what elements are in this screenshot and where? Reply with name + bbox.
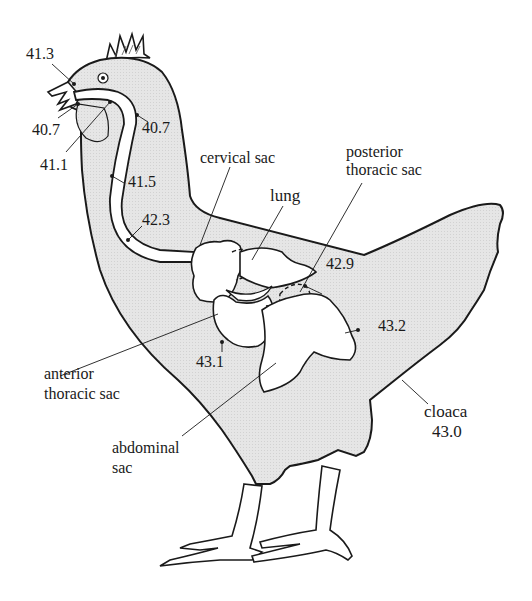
label-cloaca: cloaca (424, 402, 467, 422)
label-cervical-sac: cervical sac (200, 148, 275, 168)
label-posterior-thoracic-1: posterior (346, 142, 403, 162)
temp-beak-lower: 40.7 (32, 120, 60, 140)
temp-throat: 41.1 (40, 155, 68, 175)
label-abdominal-2: sac (112, 458, 132, 478)
label-abdominal-1: abdominal (112, 438, 180, 458)
label-posterior-thoracic-2: thoracic sac (346, 160, 422, 180)
chicken-air-sac-diagram (0, 0, 532, 601)
temp-beak-top: 41.3 (26, 44, 54, 64)
left-leg (160, 484, 262, 566)
temp-neck-upper: 40.7 (142, 118, 170, 138)
temp-posterior-thoracic: 42.9 (326, 254, 354, 274)
temp-neck-lower: 42.3 (142, 210, 170, 230)
label-anterior-thoracic-1: anterior (44, 364, 94, 384)
label-lung: lung (270, 186, 300, 206)
temp-neck-mid: 41.5 (128, 172, 156, 192)
label-anterior-thoracic-2: thoracic sac (44, 384, 120, 404)
temp-cloaca: 43.0 (432, 422, 462, 442)
temp-abdominal: 43.2 (378, 316, 406, 336)
temp-anterior-thoracic: 43.1 (196, 352, 224, 372)
